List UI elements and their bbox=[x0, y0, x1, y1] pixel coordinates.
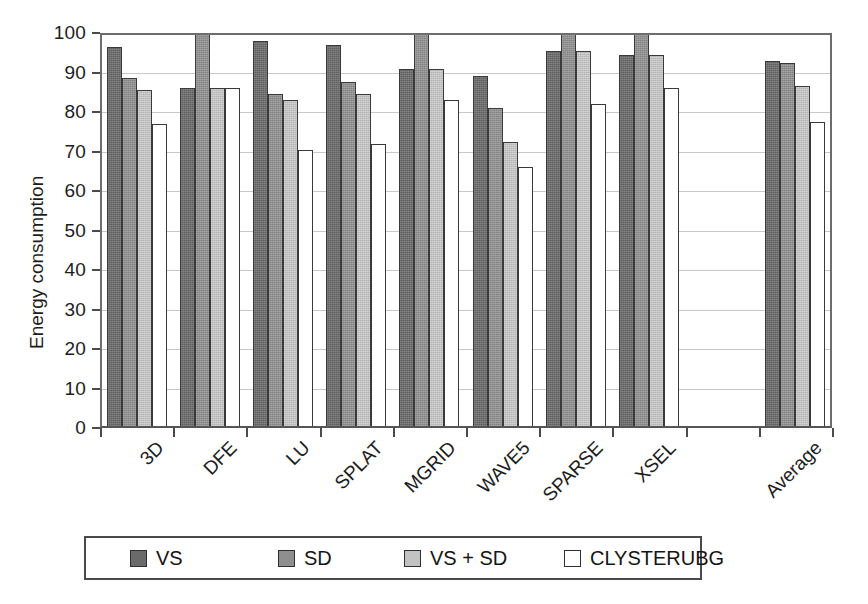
y-axis-tick-label: 50 bbox=[40, 220, 86, 242]
y-axis-tick-mark bbox=[92, 190, 100, 192]
legend-swatch-icon bbox=[404, 550, 421, 567]
y-axis-tick-mark bbox=[92, 230, 100, 232]
legend-label: SD bbox=[304, 547, 332, 570]
x-axis-tick-mark bbox=[393, 428, 395, 437]
x-axis-label-mgrid: MGRID bbox=[401, 437, 461, 497]
legend-item-sd[interactable]: SD bbox=[278, 547, 332, 570]
y-axis-tick-label: 40 bbox=[40, 259, 86, 281]
chart-figure: Energy consumption 010203040506070809010… bbox=[0, 0, 868, 604]
legend-item-vs[interactable]: VS bbox=[130, 547, 183, 570]
legend-label: VS bbox=[156, 547, 183, 570]
legend-item-clysterubg[interactable]: CLYSTERUBG bbox=[564, 547, 724, 570]
x-axis-label-lu: LU bbox=[282, 437, 315, 470]
y-axis-tick-label: 0 bbox=[40, 417, 86, 439]
y-axis-tick-mark bbox=[92, 269, 100, 271]
y-axis-tick-mark bbox=[92, 388, 100, 390]
legend-swatch-icon bbox=[130, 550, 147, 567]
y-axis-tick-label: 30 bbox=[40, 299, 86, 321]
x-axis-label-xsel: XSEL bbox=[631, 437, 681, 487]
x-axis-label-dfe: DFE bbox=[199, 437, 241, 479]
chart-legend: VSSDVS + SDCLYSTERUBG bbox=[84, 536, 702, 580]
y-axis-tick-label: 90 bbox=[40, 62, 86, 84]
legend-swatch-icon bbox=[278, 550, 295, 567]
x-axis-tick-mark bbox=[759, 428, 761, 437]
x-axis-tick-mark bbox=[686, 428, 688, 437]
legend-label: CLYSTERUBG bbox=[590, 547, 724, 570]
y-axis-tick-mark bbox=[92, 72, 100, 74]
x-axis-tick-mark bbox=[320, 428, 322, 437]
x-axis-tick-mark bbox=[612, 428, 614, 437]
legend-item-vs-sd[interactable]: VS + SD bbox=[404, 547, 507, 570]
x-axis-tick-mark bbox=[246, 428, 248, 437]
y-axis-tick-label: 100 bbox=[40, 22, 86, 44]
plot-area bbox=[100, 33, 832, 428]
x-axis-tick-mark bbox=[539, 428, 541, 437]
y-axis-tick-label: 70 bbox=[40, 141, 86, 163]
legend-swatch-icon bbox=[564, 550, 581, 567]
y-axis-tick-mark bbox=[92, 427, 100, 429]
y-axis-tick-mark bbox=[92, 309, 100, 311]
y-axis-tick-label: 60 bbox=[40, 180, 86, 202]
legend-label: VS + SD bbox=[430, 547, 507, 570]
x-axis-tick-mark bbox=[832, 428, 834, 437]
y-axis-tick-mark bbox=[92, 348, 100, 350]
x-axis-labels: 3DDFELUSPLATMGRIDWAVE5SPARSEXSELAverage bbox=[100, 437, 832, 527]
y-axis-tick-label: 20 bbox=[40, 338, 86, 360]
y-axis-tick-mark bbox=[92, 32, 100, 34]
x-axis-label-splat: SPLAT bbox=[331, 437, 388, 494]
y-axis-tick-label: 80 bbox=[40, 101, 86, 123]
y-axis-tick-label: 10 bbox=[40, 378, 86, 400]
y-axis-tick-mark bbox=[92, 111, 100, 113]
x-axis-tick-mark bbox=[173, 428, 175, 437]
x-axis-label-3d: 3D bbox=[135, 437, 168, 470]
x-axis-tick-mark bbox=[100, 428, 102, 437]
plot-frame bbox=[100, 33, 832, 428]
y-axis-tick-mark bbox=[92, 151, 100, 153]
x-axis-label-sparse: SPARSE bbox=[538, 437, 607, 506]
x-axis-label-average: Average bbox=[762, 437, 827, 502]
x-axis-tick-mark bbox=[466, 428, 468, 437]
x-axis-label-wave5: WAVE5 bbox=[473, 437, 534, 498]
